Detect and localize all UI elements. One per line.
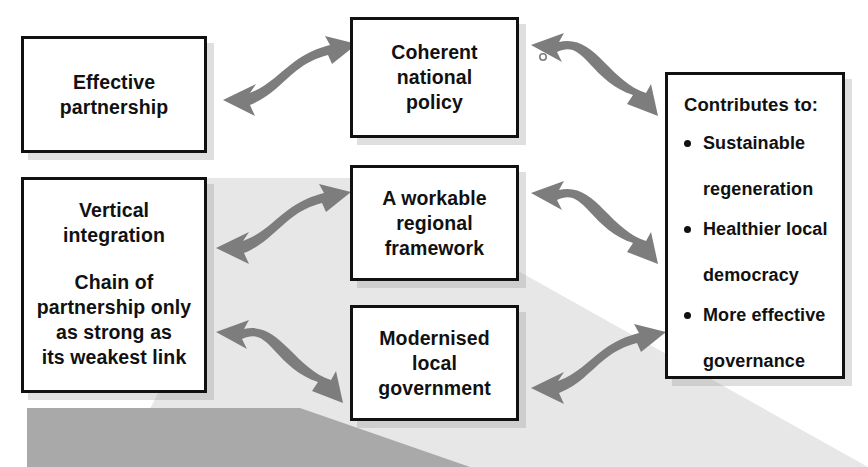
contributes-item-3-line-2: governance [703,350,832,373]
node-vertical-integration-line-5: as strong as [56,320,172,345]
bullet-icon [684,226,691,233]
node-vertical-integration-line-2: integration [63,223,165,248]
contributes-item-1-line-1: Sustainable [703,132,832,155]
node-effective-partnership[interactable]: Effective partnership [21,36,207,153]
contributes-list-item: More effective governance [684,304,832,373]
node-coherent-national-policy-line-1: Coherent [391,40,477,65]
node-effective-partnership-line-1: Effective [73,70,155,95]
node-workable-regional-framework[interactable]: A workable regional framework [350,165,519,281]
arrow-coherent-national-policy-to-contributes[interactable] [531,33,658,116]
arrow-vertical-integration-to-modernised-local-government[interactable] [216,320,343,403]
node-modernised-local-government-line-3: government [378,376,491,401]
arrow-vertical-integration-to-workable-regional-framework[interactable] [216,184,351,264]
contributes-item-3-line-1: More effective [703,304,832,327]
node-vertical-integration-line-4: partnership only [37,295,191,320]
node-workable-regional-framework-line-2: regional [396,211,473,236]
node-modernised-local-government-line-2: local [412,351,457,376]
node-vertical-integration-line-3: Chain of [75,270,154,295]
contributes-item-2-line-2: democracy [703,264,832,287]
contributes-list-item: Sustainable regeneration [684,132,832,201]
node-modernised-local-government-line-1: Modernised [379,326,489,351]
node-vertical-integration-line-6: its weakest link [42,345,187,370]
node-effective-partnership-line-2: partnership [60,95,168,120]
node-workable-regional-framework-line-1: A workable [382,186,486,211]
node-modernised-local-government[interactable]: Modernised local government [350,305,519,421]
node-vertical-integration-line-1: Vertical [79,198,149,223]
bullet-icon [684,140,691,147]
arrow-workable-regional-framework-to-contributes[interactable] [531,181,658,264]
bullet-icon [684,312,691,319]
contributes-item-2-line-1: Healthier local [703,218,832,241]
contributes-item-1-line-2: regeneration [703,178,832,201]
node-coherent-national-policy[interactable]: Coherent national policy [350,17,519,138]
node-coherent-national-policy-line-2: national [397,65,473,90]
contributes-heading: Contributes to: [684,93,818,116]
contributes-list: Sustainable regeneration Healthier local… [684,132,832,373]
node-workable-regional-framework-line-3: framework [385,236,485,261]
diagram-canvas: Effective partnership Coherent national … [0,0,868,467]
arrow-modernised-local-government-to-contributes[interactable] [531,324,666,404]
node-coherent-national-policy-line-3: policy [406,90,463,115]
node-vertical-integration[interactable]: Vertical integration Chain of partnershi… [21,177,207,393]
node-contributes-to[interactable]: Contributes to: Sustainable regeneration… [665,72,845,379]
arrow-effective-partnership-to-coherent-national-policy[interactable] [223,36,357,116]
contributes-list-item: Healthier local democracy [684,218,832,287]
